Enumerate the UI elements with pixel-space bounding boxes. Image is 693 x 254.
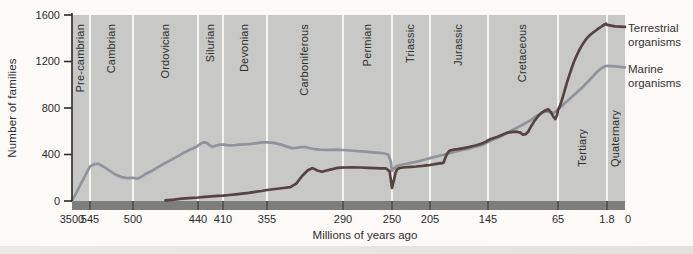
x-axis-title: Millions of years ago [240, 229, 490, 241]
period-label: Devonian [238, 24, 251, 72]
x-tick-label: 410 [201, 213, 245, 225]
period-label: Cretaceous [516, 24, 529, 82]
period-label: Cambrian [105, 24, 118, 73]
x-axis-band-tick [391, 201, 393, 210]
x-axis-band-tick [132, 201, 134, 210]
y-tick-label: 1200 [22, 55, 60, 67]
x-axis-band-tick [222, 201, 224, 210]
x-tick-label: 205 [408, 213, 452, 225]
period-label: Carboniferous [298, 24, 311, 96]
x-tick-label: 500 [111, 213, 155, 225]
plot-background [72, 15, 625, 201]
period-label: Silurian [204, 24, 217, 62]
x-tick-label: 0 [606, 213, 650, 225]
x-axis-band-tick [342, 201, 344, 210]
x-axis-band-tick [606, 201, 608, 210]
period-label: Triassic [404, 24, 417, 63]
period-label: Quaternary [609, 110, 622, 167]
x-axis-band-tick [266, 201, 268, 210]
x-tick-label: 290 [321, 213, 365, 225]
period-label: Pre-cambrian [74, 24, 87, 92]
x-axis-band-tick [89, 201, 91, 210]
x-tick-label: 545 [68, 213, 112, 225]
x-tick-label: 65 [536, 213, 580, 225]
x-tick-label: 355 [245, 213, 289, 225]
x-axis-band-tick [197, 201, 199, 210]
legend-marine-label: Marine organisms [628, 63, 693, 90]
period-label: Ordovician [159, 24, 172, 79]
x-axis-band-tick [429, 201, 431, 210]
y-tick-label: 800 [22, 102, 60, 114]
legend-terrestrial-label: Terrestrial organisms [628, 22, 693, 49]
x-axis-band-tick [557, 201, 559, 210]
x-axis-band [72, 201, 625, 210]
y-tick-label: 1600 [22, 9, 60, 21]
period-label: Jurassic [452, 24, 465, 66]
y-tick-label: 400 [22, 148, 60, 160]
scan-artifact-strip [0, 246, 693, 254]
organism-families-chart: Pre-cambrianCambrianOrdovicianSilurianDe… [0, 0, 693, 254]
y-tick-label: 0 [22, 195, 60, 207]
period-label: Tertiary [576, 129, 589, 167]
y-axis-title: Number of families [6, 33, 18, 183]
period-label: Permian [361, 24, 374, 66]
x-axis-band-tick [487, 201, 489, 210]
x-tick-label: 145 [466, 213, 510, 225]
